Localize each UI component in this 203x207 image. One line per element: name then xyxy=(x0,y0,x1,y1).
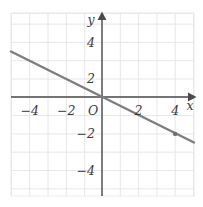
y-axis-name: y xyxy=(86,12,95,27)
x-tick-label-neg4: −4 xyxy=(20,103,38,118)
y-tick-label-2: 2 xyxy=(86,71,95,86)
origin-label: O xyxy=(88,103,98,118)
y-tick-label-neg2: −2 xyxy=(77,126,95,141)
data-point-marker xyxy=(173,132,177,136)
x-tick-label-neg2: −2 xyxy=(57,103,75,118)
y-tick-label-neg4: −4 xyxy=(77,163,95,178)
x-axis-name: x xyxy=(186,98,193,113)
graph-canvas: −4 −2 2 4 4 2 −2 −4 O x y xyxy=(0,0,203,207)
coordinate-plane-figure: −4 −2 2 4 4 2 −2 −4 O x y xyxy=(0,0,203,207)
x-tick-label-4: 4 xyxy=(170,103,179,118)
x-tick-label-2: 2 xyxy=(134,103,143,118)
y-tick-label-4: 4 xyxy=(86,35,95,50)
